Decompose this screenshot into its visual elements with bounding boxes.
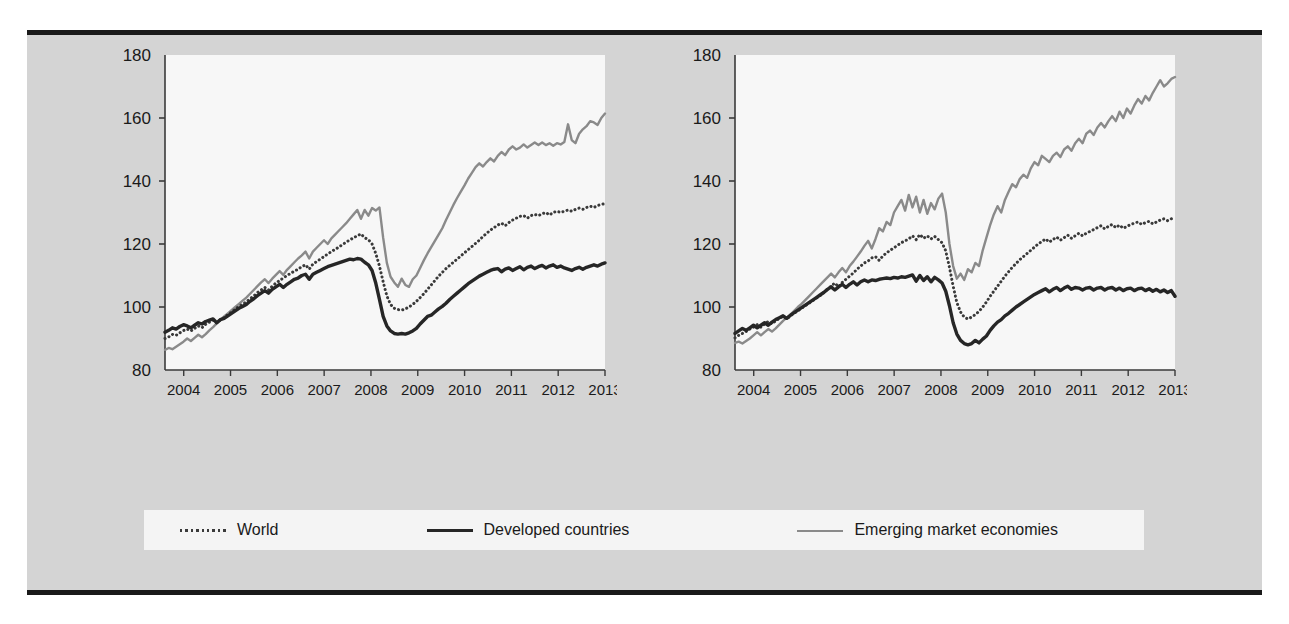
legend-item-world: World: [180, 521, 279, 539]
svg-text:2008: 2008: [354, 381, 387, 398]
plot-area-imports: 8010012014016018020042005200620072008200…: [627, 35, 1187, 495]
svg-text:2011: 2011: [1065, 381, 1097, 398]
svg-text:80: 80: [132, 361, 151, 380]
legend-swatch-world-dotted-line-icon: [180, 524, 226, 536]
svg-text:100: 100: [693, 298, 721, 317]
svg-text:2010: 2010: [1018, 381, 1051, 398]
svg-text:80: 80: [702, 361, 721, 380]
chart-panel-imports: Volume of imports 8010012014016018020042…: [627, 35, 1187, 495]
legend-swatch-developed-solid-line-icon: [427, 529, 473, 532]
svg-text:2004: 2004: [737, 381, 770, 398]
svg-text:2009: 2009: [971, 381, 1004, 398]
chart-svg-exports: 8010012014016018020042005200620072008200…: [57, 35, 617, 495]
svg-text:2011: 2011: [495, 381, 527, 398]
svg-text:2010: 2010: [448, 381, 481, 398]
svg-text:2005: 2005: [214, 381, 247, 398]
svg-text:180: 180: [693, 46, 721, 65]
svg-text:2008: 2008: [924, 381, 957, 398]
chart-svg-imports: 8010012014016018020042005200620072008200…: [627, 35, 1187, 495]
plot-area-exports: 8010012014016018020042005200620072008200…: [57, 35, 617, 495]
figure-container: Volume of exports 8010012014016018020042…: [27, 30, 1262, 595]
svg-text:2013: 2013: [1158, 381, 1187, 398]
chart-panel-exports: Volume of exports 8010012014016018020042…: [57, 35, 617, 495]
svg-text:160: 160: [693, 109, 721, 128]
svg-text:160: 160: [123, 109, 151, 128]
svg-text:140: 140: [123, 172, 151, 191]
svg-text:2012: 2012: [1112, 381, 1145, 398]
legend-item-emerging-market-economies: Emerging market economies: [797, 521, 1058, 539]
svg-text:120: 120: [693, 235, 721, 254]
legend-item-developed-countries: Developed countries: [427, 521, 630, 539]
legend-label-developed: Developed countries: [484, 521, 630, 539]
svg-text:2009: 2009: [401, 381, 434, 398]
svg-text:2006: 2006: [831, 381, 864, 398]
svg-text:2007: 2007: [307, 381, 340, 398]
svg-text:100: 100: [123, 298, 151, 317]
chart-legend: World Developed countries Emerging marke…: [144, 510, 1144, 550]
svg-text:180: 180: [123, 46, 151, 65]
legend-label-world: World: [237, 521, 279, 539]
legend-label-emerging: Emerging market economies: [854, 521, 1058, 539]
svg-text:2012: 2012: [542, 381, 575, 398]
svg-text:2013: 2013: [588, 381, 617, 398]
svg-text:120: 120: [123, 235, 151, 254]
svg-text:2007: 2007: [877, 381, 910, 398]
legend-swatch-emerging-solid-line-icon: [797, 530, 843, 532]
svg-text:2005: 2005: [784, 381, 817, 398]
svg-text:2004: 2004: [167, 381, 200, 398]
svg-text:2006: 2006: [261, 381, 294, 398]
svg-text:140: 140: [693, 172, 721, 191]
